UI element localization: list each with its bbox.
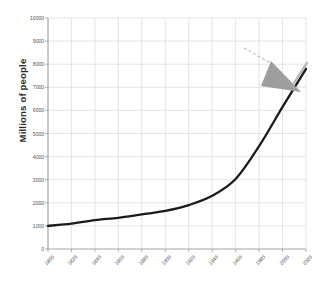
y-axis-title: Millions of people (17, 16, 28, 186)
y-tick-label: 0 (41, 246, 44, 252)
y-tick-label: 7000 (33, 84, 44, 90)
x-tick-label: 1820 (67, 254, 79, 266)
y-tick-label: 5000 (33, 131, 44, 137)
x-tick-label: 1900 (160, 254, 172, 266)
chart-figure: Millions of people 010002000300040005000… (0, 0, 317, 284)
x-tick-label: 1800 (43, 254, 55, 266)
y-axis-ticks (45, 18, 48, 249)
chart-canvas (48, 18, 306, 249)
x-tick-label: 1980 (254, 254, 266, 266)
y-tick-label: 2000 (33, 200, 44, 206)
y-tick-label: 3000 (33, 177, 44, 183)
x-tick-label: 1840 (90, 254, 102, 266)
horizontal-gridlines (48, 18, 306, 226)
x-tick-label: 1860 (113, 254, 125, 266)
plot-area: 0100020003000400050006000700080009000100… (48, 18, 306, 249)
y-tick-label: 9000 (33, 38, 44, 44)
y-tick-label: 6000 (33, 107, 44, 113)
population-line-series (48, 69, 306, 226)
x-tick-label: 2020 (301, 254, 313, 266)
x-tick-label: 2000 (278, 254, 290, 266)
x-tick-label: 1940 (207, 254, 219, 266)
x-tick-label: 1880 (137, 254, 149, 266)
y-tick-label: 4000 (33, 154, 44, 160)
y-tick-label: 1000 (33, 223, 44, 229)
y-tick-label: 10000 (30, 15, 44, 21)
y-tick-label: 8000 (33, 61, 44, 67)
x-tick-label: 1960 (231, 254, 243, 266)
x-tick-label: 1920 (184, 254, 196, 266)
